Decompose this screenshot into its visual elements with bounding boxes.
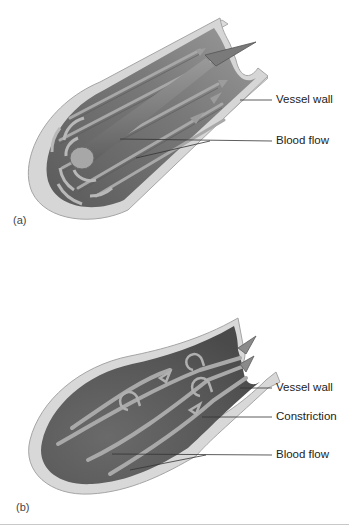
label-blood-flow: Blood flow — [276, 134, 329, 146]
label-vessel-wall: Vessel wall — [276, 381, 333, 393]
label-vessel-wall: Vessel wall — [276, 93, 333, 105]
panel-tag-a: (a) — [13, 214, 26, 226]
vessel-lumen — [41, 326, 262, 484]
panel-b-turbulent-flow: Vessel wall Constriction Blood flow (b) — [0, 260, 349, 520]
label-constriction: Constriction — [276, 410, 337, 422]
vessel-laminar-illustration — [0, 0, 349, 260]
bottom-divider — [0, 524, 349, 525]
label-blood-flow: Blood flow — [276, 448, 329, 460]
panel-a-laminar-flow: Vessel wall Blood flow (a) — [0, 0, 349, 260]
panel-tag-b: (b) — [16, 501, 29, 513]
